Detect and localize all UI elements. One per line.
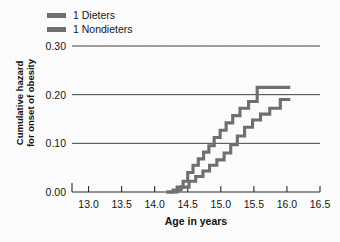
axis-lines [72,183,320,192]
x-tick-label: 16.5 [300,198,340,210]
data-curves [167,87,291,192]
y-tick-label: 0.20 [32,89,66,101]
y-axis-title-line1: Cumulative hazard [14,38,25,168]
y-tick-label: 0.10 [32,137,66,149]
y-tick-label: 0.00 [32,186,66,198]
gridlines [72,46,320,143]
y-axis-title: Cumulative hazard for onset of obesity [14,38,36,168]
y-tick-label: 0.30 [32,40,66,52]
x-axis-title: Age in years [72,215,320,227]
tick-marks [89,186,320,192]
y-axis-title-line2: for onset of obesity [25,38,36,168]
chart-figure: 1 Dieters 1 Nondieters 0.000.100.200.30 … [0,0,340,242]
